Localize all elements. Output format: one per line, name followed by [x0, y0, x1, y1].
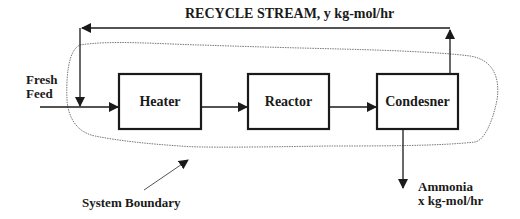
process-flow-diagram: RECYCLE STREAM, y kg-mol/hr Fresh Feed H… — [0, 0, 520, 219]
reactor-label: Reactor — [248, 94, 329, 110]
system-boundary-pointer — [144, 160, 188, 190]
ammonia-label-line1: Ammonia — [418, 180, 483, 194]
fresh-feed-label: Fresh Feed — [26, 73, 58, 102]
recycle-stream-label: RECYCLE STREAM, y kg-mol/hr — [185, 6, 394, 21]
fresh-feed-label-line1: Fresh — [26, 73, 58, 87]
condenser-label: Condesner — [377, 94, 458, 110]
fresh-feed-label-line2: Feed — [26, 87, 58, 101]
system-boundary-label: System Boundary — [82, 196, 181, 210]
ammonia-product-label: Ammonia x kg-mol/hr — [418, 180, 483, 209]
ammonia-label-line2: x kg-mol/hr — [418, 194, 483, 208]
heater-label: Heater — [119, 94, 201, 110]
